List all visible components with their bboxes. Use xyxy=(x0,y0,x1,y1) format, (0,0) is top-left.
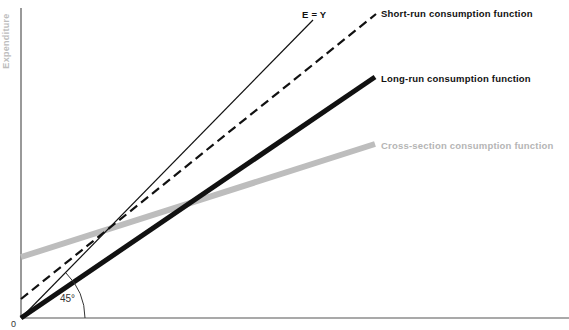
consumption-chart xyxy=(0,0,569,330)
y-axis-label: Expenditure xyxy=(1,13,11,68)
short-run-line xyxy=(21,14,376,299)
angle-label: 45° xyxy=(60,293,75,304)
short-run-label: Short-run consumption function xyxy=(381,8,533,19)
e-equals-y-label: E = Y xyxy=(302,9,326,20)
cross-section-label: Cross-section consumption function xyxy=(381,140,554,151)
long-run-label: Long-run consumption function xyxy=(381,73,531,84)
e-equals-y-line xyxy=(21,20,313,318)
origin-label: 0 xyxy=(11,319,16,329)
